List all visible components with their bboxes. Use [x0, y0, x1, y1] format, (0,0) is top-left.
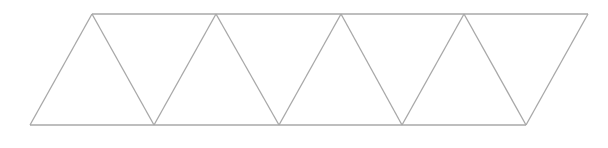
- triangle-edge: [341, 14, 402, 125]
- triangle-edge: [30, 14, 92, 125]
- triangle-edge: [216, 14, 279, 125]
- triangle-edge: [279, 14, 341, 125]
- triangle-strip-diagram: [0, 0, 608, 148]
- triangle-edge: [154, 14, 216, 125]
- triangle-edge: [526, 14, 588, 125]
- triangle-edge: [402, 14, 464, 125]
- triangle-edge: [92, 14, 154, 125]
- triangle-edge: [464, 14, 526, 125]
